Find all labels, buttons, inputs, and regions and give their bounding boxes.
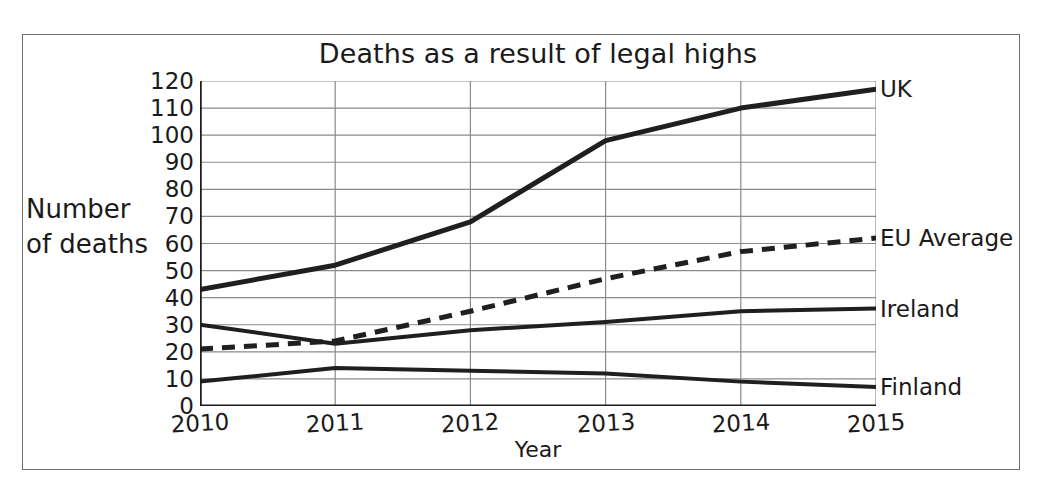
x-tick-label: 2012 [441,410,501,436]
series-lines [200,89,876,387]
series-line-finland [200,368,876,387]
y-tick-label: 20 [134,340,194,363]
y-tick-label: 120 [134,70,194,93]
x-tick-label: 2015 [846,410,906,436]
y-tick-label: 80 [134,178,194,201]
y-tick-label: 110 [134,97,194,120]
series-label-finland: Finland [880,376,962,399]
y-tick-label: 40 [134,286,194,309]
series-line-ireland [200,309,876,344]
chart-page: Deaths as a result of legal highs Number… [0,0,1041,495]
y-tick-label: 60 [134,232,194,255]
x-tick-label: 2011 [305,410,365,436]
y-tick-label: 90 [134,151,194,174]
x-tick-label: 2014 [711,410,771,436]
x-tick-label: 2010 [170,410,230,436]
series-label-ireland: Ireland [880,297,960,320]
y-tick-label: 100 [134,124,194,147]
y-tick-label: 50 [134,259,194,282]
y-tick-label: 10 [134,367,194,390]
series-label-eu-average: EU Average [880,227,1013,250]
grid-lines [200,81,876,406]
x-axis-label: Year [200,437,876,462]
y-axis-label-line1: Number [26,194,130,224]
series-end-labels: UKEU AverageIrelandFinland [880,81,1035,411]
chart-svg [200,81,876,406]
y-axis-tick-labels: 0102030405060708090100110120 [130,81,194,406]
x-tick-label: 2013 [576,410,636,436]
y-tick-label: 70 [134,205,194,228]
series-line-eu-average [200,238,876,349]
y-tick-label: 30 [134,313,194,336]
chart-title: Deaths as a result of legal highs [200,38,876,69]
plot-area [200,81,876,406]
series-label-uk: UK [880,78,912,101]
